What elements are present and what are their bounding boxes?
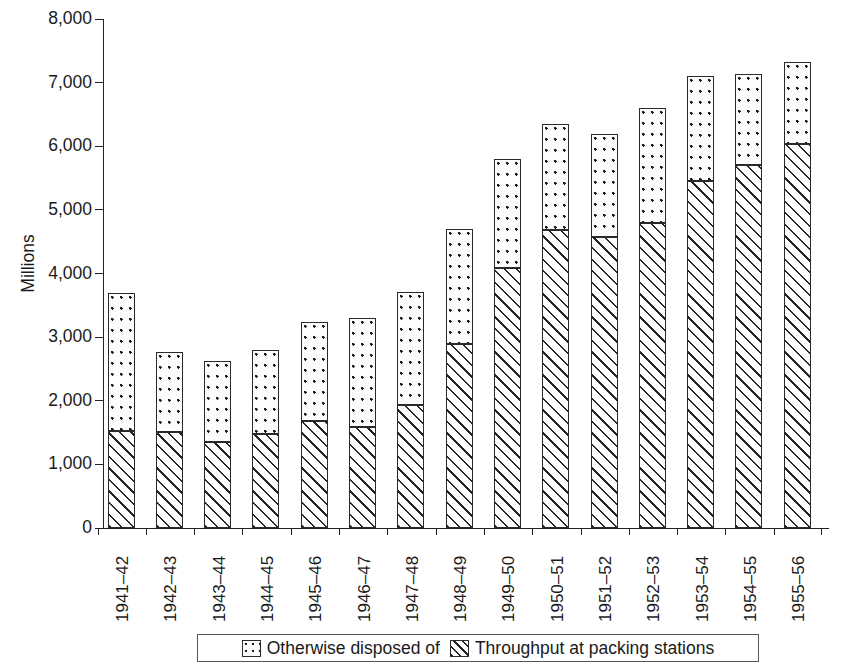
y-axis-tick-label: 1,000: [48, 455, 92, 473]
bar-group: [446, 229, 473, 528]
x-axis-tick: [436, 528, 437, 535]
x-axis-tick-label: 1950–51: [549, 556, 566, 622]
bar-segment: [542, 124, 569, 230]
y-axis-tick-label: 6,000: [48, 137, 92, 155]
y-axis-tick-label: 5,000: [48, 201, 92, 219]
x-axis-tick-label: 1953–54: [694, 556, 711, 622]
y-axis-tick: [95, 82, 103, 83]
y-axis-tick: [95, 209, 103, 210]
bar-segment: [735, 74, 762, 166]
bar-segment: [108, 431, 135, 528]
x-axis-tick: [146, 528, 147, 535]
bar-segment: [156, 432, 183, 528]
bar-segment: [252, 434, 279, 528]
bar-group: [108, 293, 135, 528]
y-axis-tick-label-wrap: 5,000: [0, 201, 92, 219]
legend-item-label: Throughput at packing stations: [475, 639, 714, 657]
x-axis-tick: [98, 528, 99, 535]
bar-group: [735, 74, 762, 528]
bar-segment: [397, 405, 424, 528]
x-axis-tick: [242, 528, 243, 535]
bar-group: [494, 159, 521, 528]
bar-segment: [349, 318, 376, 427]
y-axis-tick-label: 4,000: [48, 265, 92, 283]
bar-segment: [591, 134, 618, 237]
hatch-swatch-icon: [450, 640, 469, 657]
bar-segment: [446, 229, 473, 344]
bar-segment: [784, 62, 811, 144]
bar-segment: [301, 421, 328, 528]
x-axis-tick-label: 1946–47: [356, 556, 373, 622]
x-axis-tick-label: 1952–53: [645, 556, 662, 622]
y-axis-tick: [95, 337, 103, 338]
bar-segment: [639, 108, 666, 223]
bar-group: [687, 76, 714, 528]
x-axis-tick: [194, 528, 195, 535]
x-axis-tick-label: 1945–46: [307, 556, 324, 622]
y-axis-tick-label-wrap: 3,000: [0, 328, 92, 346]
x-axis-tick: [725, 528, 726, 535]
y-axis-tick: [95, 19, 103, 20]
y-axis-tick: [95, 528, 103, 529]
y-axis-tick-label-wrap: 7,000: [0, 74, 92, 92]
bar-segment: [494, 268, 521, 528]
y-axis-tick-label: 7,000: [48, 74, 92, 92]
x-axis-tick-label: 1941–42: [114, 556, 131, 622]
bar-segment: [301, 322, 328, 421]
bar-segment: [204, 442, 231, 528]
x-axis-tick: [291, 528, 292, 535]
x-axis-tick-label: 1944–45: [259, 556, 276, 622]
bar-segment: [784, 144, 811, 528]
y-axis-tick-label: 0: [82, 519, 92, 537]
bar-segment: [397, 292, 424, 405]
bar-segment: [687, 181, 714, 528]
y-axis-tick: [95, 273, 103, 274]
plot-area: [103, 19, 829, 528]
y-axis-tick-label-wrap: 4,000: [0, 265, 92, 283]
x-axis-tick-label: 1943–44: [211, 556, 228, 622]
legend-item-label: Otherwise disposed of: [267, 639, 440, 657]
bar-segment: [687, 76, 714, 181]
legend-item[interactable]: Otherwise disposed of: [242, 639, 440, 657]
chart-legend: Otherwise disposed ofThroughput at packi…: [197, 634, 759, 662]
y-axis-tick-label-wrap: 8,000: [0, 10, 92, 28]
y-axis-title: Millions: [18, 204, 39, 324]
y-axis-tick: [95, 464, 103, 465]
x-axis-tick-label: 1955–56: [790, 556, 807, 622]
y-axis-tick-label-wrap: 6,000: [0, 137, 92, 155]
bar-group: [349, 318, 376, 528]
bar-segment: [735, 165, 762, 528]
y-axis-tick-label: 8,000: [48, 10, 92, 28]
legend-item[interactable]: Throughput at packing stations: [450, 639, 714, 657]
dotted-swatch-icon: [242, 640, 261, 657]
x-axis-tick-label: 1951–52: [597, 556, 614, 622]
bar-group: [156, 352, 183, 528]
bar-segment: [156, 352, 183, 432]
y-axis-tick: [95, 146, 103, 147]
bar-segment: [446, 344, 473, 528]
bar-group: [542, 124, 569, 528]
x-axis-tick: [774, 528, 775, 535]
x-axis-tick-label: 1954–55: [742, 556, 759, 622]
bar-segment: [542, 230, 569, 528]
bar-group: [639, 108, 666, 528]
y-axis-tick-label: 3,000: [48, 328, 92, 346]
x-axis-tick-label: 1949–50: [500, 556, 517, 622]
stacked-bar-chart: Millions 01,0002,0003,0004,0005,0006,000…: [0, 0, 843, 665]
x-axis-tick: [339, 528, 340, 535]
bar-segment: [349, 427, 376, 528]
y-axis-tick-label-wrap: 2,000: [0, 392, 92, 410]
bar-segment: [639, 223, 666, 528]
y-axis-tick: [95, 400, 103, 401]
x-axis-tick-label: 1947–48: [404, 556, 421, 622]
bar-group: [301, 322, 328, 528]
bar-segment: [591, 237, 618, 528]
bar-segment: [204, 361, 231, 442]
x-axis-tick: [677, 528, 678, 535]
y-axis-tick-label: 2,000: [48, 392, 92, 410]
bar-segment: [252, 350, 279, 434]
x-axis-tick: [532, 528, 533, 535]
bar-group: [591, 134, 618, 528]
x-axis-tick-label: 1948–49: [452, 556, 469, 622]
x-axis-tick: [629, 528, 630, 535]
